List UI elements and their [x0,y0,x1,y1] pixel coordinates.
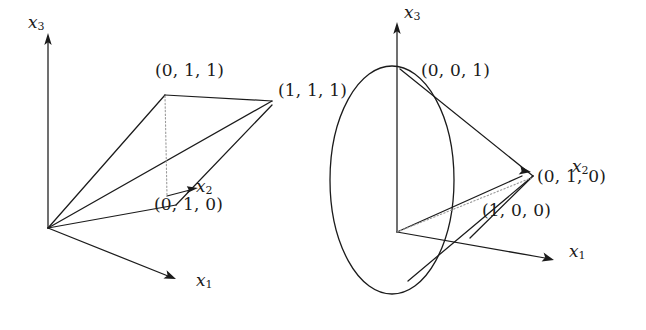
right-axis-label-x3: x3 [404,4,421,22]
right-point-label-0-1-0: (0, 1, 0) [537,168,606,185]
left-axis-x1 [48,228,176,279]
right-point-label-0-0-1: (0, 0, 1) [421,62,490,79]
right-axis-x1 [397,232,554,261]
left-axis-x3 [44,33,51,228]
figure-canvas: x3 x2 x1 (0, 1, 1) (1, 1, 1) (0, 1, 0) x… [0,0,646,330]
right-cone-edges [400,69,533,281]
right-point-label-1-0-0: (1, 0, 0) [482,202,551,219]
right-axis-x2 [397,166,531,232]
left-point-label-0-1-1: (0, 1, 1) [155,62,224,79]
left-point-label-0-1-0: (0, 1, 0) [154,196,223,213]
right-axis-label-x1: x1 [569,243,586,261]
left-point-label-1-1-1: (1, 1, 1) [278,82,347,99]
right-cone-base-ellipse [330,66,454,294]
left-axis-label-x3: x3 [28,14,45,32]
right-axis-x3 [393,22,400,232]
left-dotted-drop-line [165,96,167,196]
left-axis-label-x1: x1 [196,272,213,290]
line-art-layer [0,0,646,330]
